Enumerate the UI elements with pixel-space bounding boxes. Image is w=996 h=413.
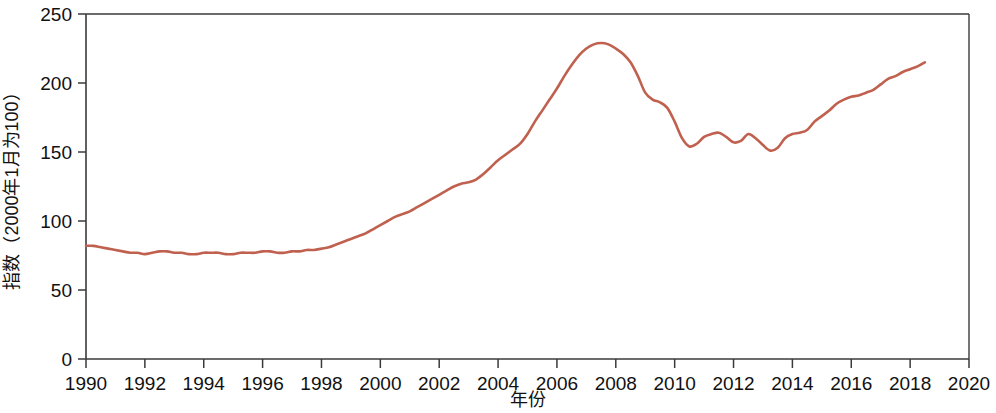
- data-series-group: [86, 43, 925, 254]
- x-axis-ticks: [86, 359, 969, 368]
- x-tick-label: 2014: [771, 373, 814, 394]
- y-tick-label: 200: [40, 73, 72, 94]
- x-tick-label: 2002: [418, 373, 460, 394]
- x-tick-label: 2018: [889, 373, 931, 394]
- x-tick-label: 1994: [183, 373, 226, 394]
- x-tick-label: 2012: [712, 373, 754, 394]
- x-tick-label: 2008: [595, 373, 637, 394]
- y-tick-label: 150: [40, 142, 72, 163]
- x-tick-label: 2020: [948, 373, 990, 394]
- x-tick-label: 2000: [359, 373, 401, 394]
- x-tick-label: 2010: [654, 373, 696, 394]
- x-tick-label: 1992: [124, 373, 166, 394]
- y-axis-tick-labels: 050100150200250: [40, 4, 72, 370]
- plot-frame: [86, 14, 969, 359]
- chart-canvas: 050100150200250 199019921994199619982000…: [0, 0, 996, 413]
- y-tick-label: 0: [61, 349, 72, 370]
- y-tick-label: 250: [40, 4, 72, 25]
- x-tick-label: 1998: [300, 373, 342, 394]
- x-tick-label: 1996: [241, 373, 283, 394]
- y-axis-title: 指数（2000年1月为100）: [2, 83, 22, 289]
- y-tick-label: 100: [40, 211, 72, 232]
- x-tick-label: 2016: [830, 373, 872, 394]
- y-axis-ticks: [78, 14, 86, 359]
- y-tick-label: 50: [51, 280, 72, 301]
- x-axis-title: 年份: [510, 390, 546, 410]
- index-line-series: [86, 43, 925, 254]
- line-chart-figure: 050100150200250 199019921994199619982000…: [0, 0, 996, 413]
- x-tick-label: 1990: [65, 373, 107, 394]
